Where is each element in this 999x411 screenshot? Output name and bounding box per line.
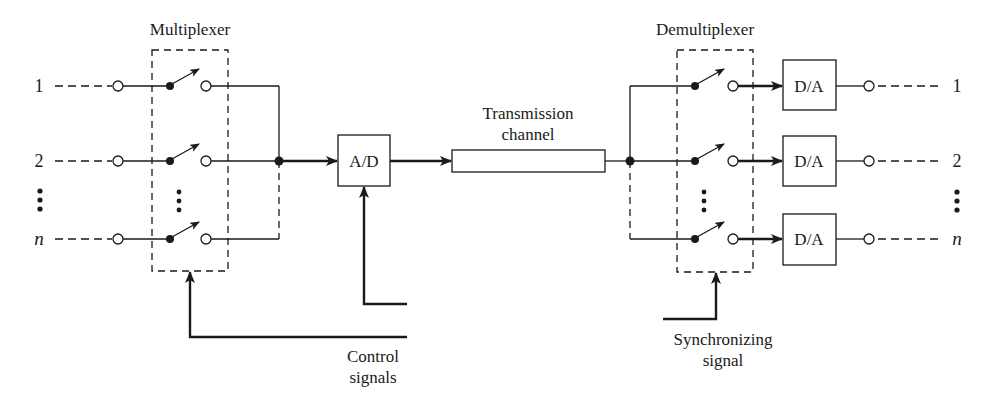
input-channel-n [55, 222, 279, 244]
output-label-n: n [952, 228, 962, 249]
demultiplexer-title: Demultiplexer [656, 20, 755, 39]
switch-arrow-icon [697, 69, 724, 84]
output-label-2: 2 [953, 151, 962, 171]
ad-label: A/D [349, 152, 378, 171]
switch-arrow-icon [172, 69, 199, 84]
transmission-channel-box [452, 150, 605, 172]
sync-signal-line [663, 273, 716, 319]
control-signal-line-ad [364, 187, 407, 304]
da-label-n: D/A [794, 230, 824, 249]
input-channel-1 [55, 69, 279, 91]
sync-label-line1: Synchronizing [673, 330, 773, 349]
input-label-1: 1 [35, 76, 44, 96]
channel-label-line1: Transmission [482, 104, 574, 123]
da-label-2: D/A [794, 152, 824, 171]
input-channel-2 [55, 144, 279, 166]
ellipsis-dots [37, 188, 959, 212]
control-label-line1: Control [347, 347, 399, 366]
da-label-1: D/A [794, 77, 824, 96]
multiplexer-title: Multiplexer [150, 20, 231, 39]
switch-arrow-icon [697, 144, 724, 159]
channel-label-line2: channel [502, 125, 555, 144]
switch-arrow-icon [172, 144, 199, 159]
switch-arrow-icon [172, 222, 199, 237]
input-label-n: n [34, 228, 44, 249]
output-label-1: 1 [953, 76, 962, 96]
switch-arrow-icon [697, 222, 724, 237]
input-label-2: 2 [35, 151, 44, 171]
tdm-block-diagram: Multiplexer Demultiplexer 1 2 n 1 2 n A/… [0, 0, 999, 411]
sync-label-line2: signal [703, 351, 744, 370]
control-label-line2: signals [349, 368, 396, 387]
